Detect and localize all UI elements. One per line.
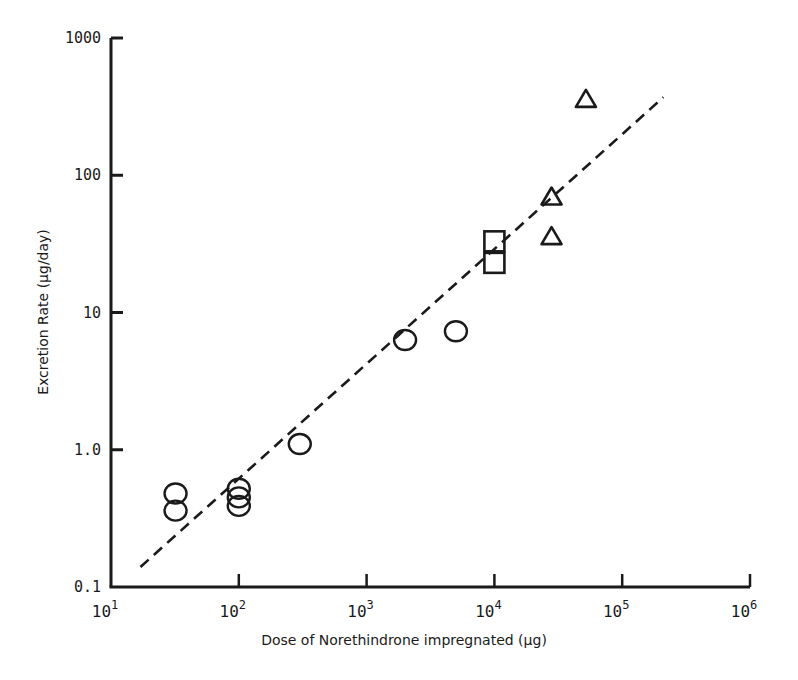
y-tick-label: 100: [74, 166, 101, 184]
dashed-regression-line: [140, 97, 663, 567]
log-log-scatter-chart: 1000100101.00.1101102103104105106 Dose o…: [0, 0, 798, 680]
y-tick-label: 10: [83, 304, 101, 322]
triangle-marker: [576, 90, 596, 107]
x-tick-label: 106: [731, 598, 758, 621]
triangle-marker: [542, 227, 562, 244]
fit-line: [140, 97, 663, 567]
x-tick-label: 101: [92, 598, 119, 621]
y-tick-label: 1.0: [74, 441, 101, 459]
y-tick-label: 0.1: [74, 578, 101, 596]
square-marker: [484, 253, 504, 273]
axes: [110, 38, 751, 587]
y-axis-title: Excretion Rate (µg/day): [35, 229, 51, 395]
x-axis-title: Dose of Norethindrone impregnated (µg): [261, 632, 547, 648]
x-tick-label: 103: [347, 598, 374, 621]
circle-marker: [289, 434, 311, 454]
circle-marker: [394, 330, 416, 350]
y-tick-label: 1000: [65, 29, 101, 47]
x-tick-label: 102: [220, 598, 247, 621]
circle-marker: [445, 321, 467, 341]
x-tick-label: 105: [603, 598, 630, 621]
data-points: [165, 90, 596, 521]
x-tick-label: 104: [475, 598, 502, 621]
